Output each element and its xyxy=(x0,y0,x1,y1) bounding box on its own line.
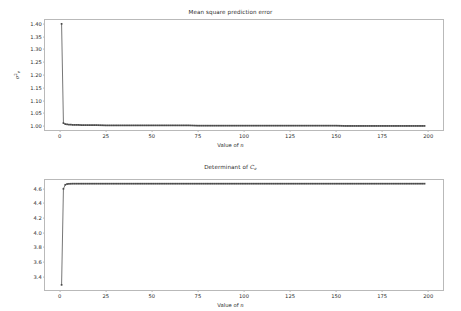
series-marker xyxy=(389,125,391,127)
x-tick-mark xyxy=(428,290,429,292)
y-tick-label: 1.40 xyxy=(30,21,42,27)
series-marker xyxy=(385,183,387,185)
series-marker xyxy=(357,125,359,127)
series-marker xyxy=(332,183,334,185)
series-marker xyxy=(302,125,304,127)
series-marker xyxy=(114,125,116,127)
series-marker xyxy=(144,183,146,185)
series-marker xyxy=(402,183,404,185)
series-marker xyxy=(400,183,402,185)
series-marker xyxy=(94,183,96,185)
series-marker xyxy=(201,183,203,185)
series-marker xyxy=(105,125,107,127)
series-marker xyxy=(182,183,184,185)
x-tick-mark xyxy=(244,130,245,132)
series-marker xyxy=(175,125,177,127)
series-marker xyxy=(107,183,109,185)
series-marker xyxy=(155,183,157,185)
series-marker xyxy=(271,183,273,185)
series-marker xyxy=(193,125,195,127)
series-marker xyxy=(286,183,288,185)
y-axis-label-top: σ2e xyxy=(13,71,21,79)
x-tick-mark xyxy=(105,290,106,292)
series-marker xyxy=(422,125,424,127)
series-marker xyxy=(70,183,72,185)
series-marker xyxy=(158,183,160,185)
series-marker xyxy=(300,183,302,185)
series-marker xyxy=(133,183,135,185)
x-tick-label: 25 xyxy=(102,133,109,139)
series-marker xyxy=(177,183,179,185)
series-marker xyxy=(114,183,116,185)
series-marker xyxy=(228,125,230,127)
series-marker xyxy=(306,125,308,127)
series-marker xyxy=(227,125,229,127)
series-marker xyxy=(324,125,326,127)
series-marker xyxy=(101,183,103,185)
y-tick-label: 1.25 xyxy=(30,59,42,65)
series-marker xyxy=(420,183,422,185)
series-marker xyxy=(424,183,426,185)
series-marker xyxy=(225,183,227,185)
x-tick-label: 150 xyxy=(331,133,341,139)
series-marker xyxy=(64,184,66,186)
series-marker xyxy=(158,125,160,127)
x-tick-label: 100 xyxy=(239,133,249,139)
series-marker xyxy=(365,125,367,127)
y-tick-label: 1.20 xyxy=(30,72,42,78)
series-marker xyxy=(127,125,129,127)
series-marker xyxy=(394,183,396,185)
series-marker xyxy=(262,125,264,127)
series-marker xyxy=(199,125,201,127)
y-tick-label: 1.10 xyxy=(30,98,42,104)
series-marker xyxy=(199,183,201,185)
series-marker xyxy=(256,183,258,185)
series-marker xyxy=(151,125,153,127)
series-marker xyxy=(173,125,175,127)
series-marker xyxy=(333,183,335,185)
series-marker xyxy=(190,125,192,127)
series-marker xyxy=(381,183,383,185)
series-marker xyxy=(354,183,356,185)
series-marker xyxy=(206,125,208,127)
series-marker xyxy=(322,125,324,127)
series-marker xyxy=(112,183,114,185)
series-marker xyxy=(107,125,109,127)
series-marker xyxy=(396,125,398,127)
series-marker xyxy=(118,125,120,127)
series-marker xyxy=(160,183,162,185)
series-marker xyxy=(122,125,124,127)
series-marker xyxy=(344,183,346,185)
series-marker xyxy=(315,125,317,127)
series-marker xyxy=(363,183,365,185)
series-marker xyxy=(321,125,323,127)
series-marker xyxy=(311,125,313,127)
series-marker xyxy=(328,183,330,185)
series-marker xyxy=(184,183,186,185)
series-marker xyxy=(162,183,164,185)
y-tick-label: 4.0 xyxy=(34,230,42,236)
series-marker xyxy=(359,125,361,127)
series-marker xyxy=(228,183,230,185)
series-marker xyxy=(247,125,249,127)
series-marker xyxy=(392,183,394,185)
series-marker xyxy=(171,183,173,185)
series-marker xyxy=(374,183,376,185)
series-marker xyxy=(88,124,90,126)
x-axis-label-top: Value of n xyxy=(0,142,461,148)
series-marker xyxy=(131,183,133,185)
x-tick-mark xyxy=(290,290,291,292)
series-marker xyxy=(304,125,306,127)
series-marker xyxy=(214,183,216,185)
series-marker xyxy=(367,125,369,127)
series-marker xyxy=(319,183,321,185)
series-marker xyxy=(151,183,153,185)
series-marker xyxy=(125,125,127,127)
series-marker xyxy=(361,183,363,185)
series-marker xyxy=(232,125,234,127)
series-marker xyxy=(335,125,337,127)
series-marker xyxy=(378,183,380,185)
series-marker xyxy=(120,125,122,127)
y-tick-label: 3.8 xyxy=(34,244,42,250)
x-tick-label: 25 xyxy=(102,293,109,299)
